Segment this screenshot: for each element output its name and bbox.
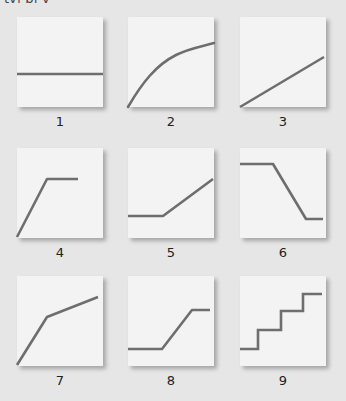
panel-label-2: 2 bbox=[128, 114, 214, 129]
constant-line-graph bbox=[17, 17, 103, 107]
rise-plateau-graph bbox=[17, 148, 103, 238]
graph-panel-9 bbox=[240, 276, 326, 366]
graph-panel-6 bbox=[240, 148, 326, 238]
graph-panel-3 bbox=[240, 17, 326, 107]
graph-panel-1 bbox=[17, 17, 103, 107]
panel-label-6: 6 bbox=[240, 245, 326, 260]
graph-panel-4 bbox=[17, 148, 103, 238]
s-step-graph bbox=[128, 276, 214, 366]
panel-label-7: 7 bbox=[17, 373, 103, 388]
panel-label-9: 9 bbox=[240, 373, 326, 388]
linear-increase-graph bbox=[240, 17, 326, 107]
panel-label-1: 1 bbox=[17, 114, 103, 129]
staircase-graph bbox=[240, 276, 326, 366]
graph-panel-5 bbox=[128, 148, 214, 238]
concave-curve-graph bbox=[128, 17, 214, 107]
flat-decline-flat-graph bbox=[240, 148, 326, 238]
flat-then-rise-graph bbox=[128, 148, 214, 238]
panel-label-3: 3 bbox=[240, 114, 326, 129]
two-slope-rise-graph bbox=[17, 276, 103, 366]
panel-label-5: 5 bbox=[128, 245, 214, 260]
cut-off-caption: ty| p| y bbox=[0, 0, 346, 3]
panel-label-4: 4 bbox=[17, 245, 103, 260]
graph-panel-7 bbox=[17, 276, 103, 366]
panel-label-8: 8 bbox=[128, 373, 214, 388]
graph-panel-8 bbox=[128, 276, 214, 366]
graph-panel-2 bbox=[128, 17, 214, 107]
